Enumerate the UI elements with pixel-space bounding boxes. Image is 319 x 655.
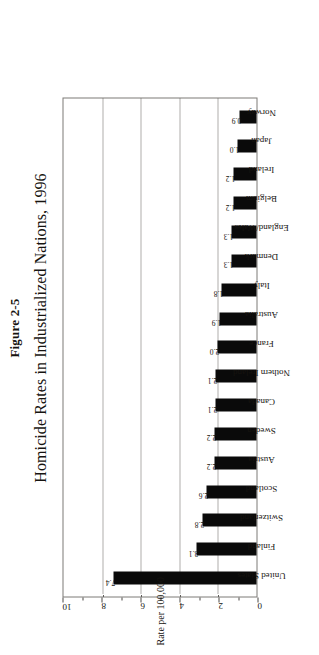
bar-value-label: 1.3 (223, 260, 232, 268)
bar-value-label: 1.8 (214, 289, 223, 297)
bar[interactable]: 1.8 (221, 283, 256, 296)
bar-value-label: 2.0 (210, 347, 219, 355)
category-label: Nothern Ireland (232, 367, 289, 376)
category-label: Denmark (244, 251, 278, 260)
bar-value-label: 1.2 (225, 203, 234, 211)
bar-value-label: 2.8 (194, 520, 203, 528)
category-label-slot: United States (258, 564, 316, 593)
bar-slot: 1.3 (63, 217, 256, 246)
category-label-slot: Belgium (258, 188, 316, 217)
category-label-slot: Austria (258, 448, 316, 477)
category-label-slot: Denmark (258, 246, 316, 275)
bar-slot: 1.9 (63, 304, 256, 333)
category-label-slot: Sweden (258, 419, 316, 448)
category-label-slot: France (258, 333, 316, 362)
bar-slot: 3.1 (63, 534, 256, 563)
category-label: United States (237, 570, 285, 579)
category-label: Switzerland (240, 512, 283, 521)
bar-value-label: 2.1 (208, 376, 217, 384)
category-label: Canada (248, 396, 275, 405)
rotated-figure-canvas: Figure 2-5 Homicide Rates in Industriali… (0, 0, 319, 655)
figure-number: Figure 2-5 (6, 0, 22, 655)
bar-value-label: 2.1 (208, 405, 217, 413)
bar-slot: 0.9 (63, 102, 256, 131)
bar-value-label: 1.0 (229, 145, 238, 153)
bar-slot: 1.3 (63, 246, 256, 275)
category-label-slot: Nothern Ireland (258, 362, 316, 391)
bar-value-label: 2.2 (206, 433, 215, 441)
category-label: France (249, 338, 274, 347)
bar-series: 7.43.12.82.62.22.22.12.12.01.91.81.31.31… (63, 98, 256, 596)
bar-slot: 2.1 (63, 361, 256, 390)
bar-value-label: 1.9 (212, 318, 221, 326)
bar-slot: 2.8 (63, 506, 256, 535)
category-label-slot: Japan (258, 130, 316, 159)
y-axis-title-text: Rate per 100,000 (154, 576, 165, 645)
bar-value-label: 2.6 (198, 491, 207, 499)
y-axis-title: Rate per 100,000 (62, 576, 257, 645)
category-label: Scotland (245, 483, 277, 492)
bar-slot: 2.1 (63, 390, 256, 419)
category-label: Belgium (246, 193, 277, 202)
category-label: Japan (251, 135, 272, 144)
category-label: Norway (247, 107, 276, 116)
bar-slot: 1.2 (63, 160, 256, 189)
category-label: Sweden (247, 425, 276, 434)
category-label: Finland (247, 541, 275, 550)
category-label: Austria (248, 454, 275, 463)
bar-slot: 1.0 (63, 131, 256, 160)
bar-slot: 2.0 (63, 333, 256, 362)
y-tick-label-0: 0 (257, 601, 262, 611)
category-label-slot: Scotland (258, 477, 316, 506)
category-label: Ireland (248, 164, 273, 173)
category-label-slot: Finland (258, 535, 316, 564)
bar-value-label: 1.3 (223, 232, 232, 240)
bar-slot: 2.2 (63, 448, 256, 477)
category-label: Australia (245, 309, 278, 318)
bar-slot: 1.8 (63, 275, 256, 304)
bar-value-label: 1.2 (225, 174, 234, 182)
bar-slot: 1.2 (63, 188, 256, 217)
category-label-slot: Norway (258, 101, 316, 130)
category-label-slot: England/Wales (258, 217, 316, 246)
category-axis-labels: United StatesFinlandSwitzerlandScotlandA… (258, 97, 316, 597)
category-label-slot: Australia (258, 304, 316, 333)
bar-value-label: 3.1 (188, 549, 197, 557)
bar-slot: 2.6 (63, 477, 256, 506)
category-label: Italy (253, 280, 270, 289)
bar-slot: 2.2 (63, 419, 256, 448)
plot-area: 7.43.12.82.62.22.22.12.12.01.91.81.31.31… (62, 97, 257, 597)
category-label-slot: Switzerland (258, 506, 316, 535)
category-label-slot: Ireland (258, 159, 316, 188)
figure-container: Figure 2-5 Homicide Rates in Industriali… (0, 0, 319, 655)
figure-title: Homicide Rates in Industrialized Nations… (31, 0, 49, 655)
bar-value-label: 0.9 (231, 116, 240, 124)
category-label-slot: Italy (258, 275, 316, 304)
category-label: England/Wales (234, 222, 288, 231)
category-label-slot: Canada (258, 390, 316, 419)
bar-value-label: 2.2 (206, 462, 215, 470)
